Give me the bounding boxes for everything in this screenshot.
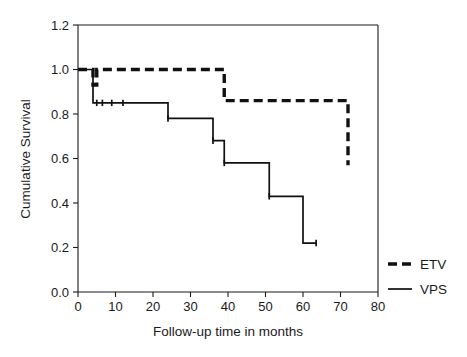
chart-legend: ETVVPS <box>388 257 447 297</box>
x-axis-title: Follow-up time in months <box>153 324 303 339</box>
series-line-vps <box>78 70 316 244</box>
y-tick-label: 0.0 <box>51 285 69 300</box>
censor-marks-vps <box>97 100 316 247</box>
x-tick-label: 20 <box>146 299 160 314</box>
y-tick-label: 0.6 <box>51 151 69 166</box>
y-tick-label: 0.8 <box>51 107 69 122</box>
legend-label-etv: ETV <box>420 257 446 272</box>
y-tick-label: 0.4 <box>51 196 69 211</box>
x-axis-ticks: 01020304050607080 <box>74 292 385 314</box>
legend-label-vps: VPS <box>420 282 447 297</box>
x-tick-label: 60 <box>296 299 310 314</box>
y-tick-label: 1.2 <box>51 18 69 33</box>
y-axis-ticks: 0.00.20.40.60.81.01.2 <box>51 18 78 300</box>
series-line-etv <box>78 70 348 166</box>
chart-canvas: 0.00.20.40.60.81.01.2 01020304050607080 … <box>0 0 467 357</box>
series-group <box>78 70 348 247</box>
x-tick-label: 30 <box>183 299 197 314</box>
x-tick-label: 80 <box>371 299 385 314</box>
y-tick-label: 1.0 <box>51 62 69 77</box>
x-tick-label: 10 <box>108 299 122 314</box>
x-tick-label: 50 <box>258 299 272 314</box>
x-tick-label: 70 <box>333 299 347 314</box>
y-tick-label: 0.2 <box>51 240 69 255</box>
y-axis-title: Cumulative Survival <box>18 99 33 218</box>
axis-frame <box>78 25 378 292</box>
x-tick-label: 0 <box>74 299 81 314</box>
survival-chart-figure: 0.00.20.40.60.81.01.2 01020304050607080 … <box>0 0 467 357</box>
x-tick-label: 40 <box>221 299 235 314</box>
